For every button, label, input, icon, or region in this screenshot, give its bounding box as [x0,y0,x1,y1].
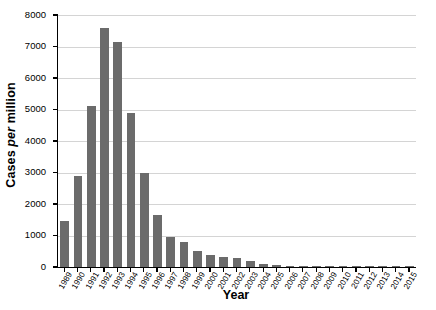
y-axis-tick-label: 5000 [25,105,46,115]
bar [113,42,122,267]
bar [87,106,96,267]
y-axis-tick-label: 7000 [25,42,46,52]
y-axis-title: Cases per million [0,0,22,270]
bar [100,28,109,267]
bar [140,173,149,267]
bar [206,255,215,267]
y-axis-tick-label: 1000 [25,231,46,241]
y-axis-tick-label: 0 [41,262,46,272]
bar [233,258,242,267]
bar-series [58,15,416,267]
y-axis-title-suffix: million [4,82,18,127]
y-axis-tick-label: 4000 [25,136,46,146]
y-axis-title-prefix: Cases [4,147,18,188]
bar [153,215,162,267]
bar [127,113,136,267]
bar [193,251,202,267]
y-axis-tick-label: 6000 [25,73,46,83]
bar-chart-figure: Cases per million 8000700060005000400030… [0,0,436,310]
y-axis-tick-label: 3000 [25,168,46,178]
bar [219,257,228,267]
bar [74,176,83,267]
bar [60,221,69,267]
y-axis-tick-label: 8000 [25,10,46,20]
bar [166,237,175,267]
bar [180,242,189,267]
y-axis-tick-label: 2000 [25,199,46,209]
plot-area: 800070006000500040003000200010000 [57,15,416,268]
y-axis-title-italic: per [4,127,18,147]
x-axis-title: Year [57,288,415,302]
